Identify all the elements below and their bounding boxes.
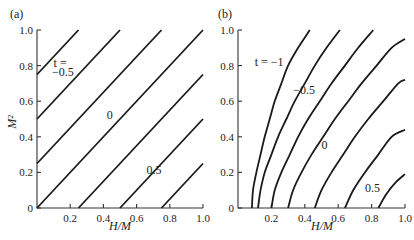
curve-line [162,164,204,209]
curve-line [378,174,405,208]
figure: (a) M² H/M 00.20.40.60.81.00.20.40.60.81… [0,0,414,240]
curve-line [315,80,405,208]
y-tick-label: 1.0 [220,24,234,36]
curve-label: t = −1 [255,55,284,69]
x-tick-label: 0.4 [298,212,312,224]
x-tick-label: 0.6 [331,212,345,224]
curve-label: 0 [107,108,113,122]
y-tick-label: 1.0 [19,24,33,36]
y-tick-label: 0.8 [220,60,234,72]
panel-a-ylabel: M² [5,115,19,130]
curve-label: 0.5 [147,163,162,177]
x-tick-label: 1.0 [196,212,210,224]
panel-b-annotations: t = −1−0.500.5 [255,55,380,195]
curve-line [37,30,120,119]
panel-a-annotations: t =−0.500.5 [52,56,162,177]
panel-a: (a) M² H/M 00.20.40.60.81.00.20.40.60.81… [5,7,210,233]
y-tick-label: 0 [28,202,34,214]
y-tick-label: 0.4 [220,131,234,143]
panel-b-axes: 00.20.40.60.81.00.20.40.60.81.0 [220,24,412,224]
y-tick-label: 0.2 [19,166,33,178]
panel-b: (b) H/M 00.20.40.60.81.00.20.40.60.81.0 … [218,7,412,233]
curve-label: 0.5 [365,181,380,195]
y-tick-label: 0 [229,202,235,214]
x-tick-label: 0.8 [365,212,379,224]
panel-a-xlabel: H/M [108,219,132,233]
x-tick-label: 0.2 [63,212,77,224]
x-tick-label: 0.2 [265,212,279,224]
curve-label: −0.5 [52,65,74,79]
x-tick-label: 0.6 [130,212,144,224]
y-tick-label: 0.8 [19,60,33,72]
x-tick-label: 0.4 [97,212,111,224]
curve-line [79,75,204,209]
x-tick-label: 0.8 [163,212,177,224]
y-tick-label: 0.6 [220,95,234,107]
curve-label: −0.5 [293,83,315,97]
y-tick-label: 0.4 [19,131,33,143]
curve-line [37,30,162,164]
curve-label: 0 [322,138,328,152]
panel-b-label: (b) [218,7,232,21]
curve-line [345,130,405,208]
panel-a-label: (a) [10,7,23,21]
x-tick-label: 1.0 [398,212,412,224]
y-tick-label: 0.2 [220,166,234,178]
y-tick-label: 0.6 [19,95,33,107]
